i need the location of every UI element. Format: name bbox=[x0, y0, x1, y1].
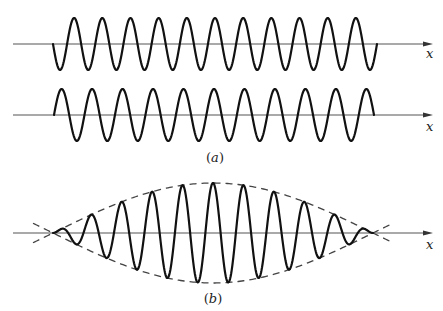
paren-close: ) bbox=[217, 291, 222, 306]
paren-close: ) bbox=[219, 150, 224, 165]
x-axis-label: x bbox=[426, 119, 434, 134]
panel-b-beat: x bbox=[13, 183, 434, 283]
panel-label-b: (b) bbox=[204, 291, 222, 306]
x-axis-label: x bbox=[426, 46, 434, 61]
panel-label-a: (a) bbox=[206, 150, 224, 165]
panel-a-wave-2: x bbox=[13, 89, 434, 141]
arrow-icon bbox=[423, 231, 433, 236]
panel-a-wave-1: x bbox=[13, 18, 434, 70]
panel-letter: a bbox=[211, 150, 219, 165]
x-axis-label: x bbox=[426, 237, 434, 252]
envelope-upper bbox=[33, 183, 393, 243]
panel-letter: b bbox=[209, 291, 217, 306]
envelope-lower bbox=[33, 223, 393, 283]
wave-figure: x x (a) x (b) bbox=[0, 0, 443, 311]
arrow-icon bbox=[423, 113, 433, 118]
